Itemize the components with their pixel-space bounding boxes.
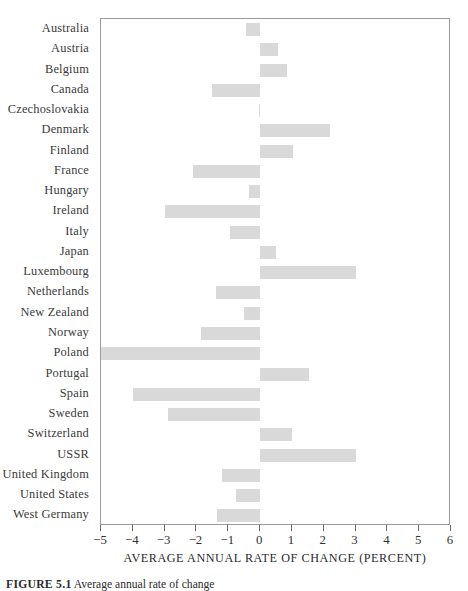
category-label: Luxembourg: [0, 261, 96, 281]
bar-row: [101, 445, 449, 465]
category-label: Spain: [0, 383, 96, 403]
bar: [216, 286, 261, 299]
category-label: Japan: [0, 241, 96, 261]
plot-area: [100, 18, 450, 525]
axis-tick: [323, 525, 324, 531]
category-label: Austria: [0, 38, 96, 58]
bar-row: [101, 39, 449, 59]
bar-row: [101, 485, 449, 505]
bar: [168, 408, 260, 421]
axis-tick: [195, 525, 196, 531]
figure-caption-text: Average annual rate of change: [74, 578, 215, 591]
bar: [260, 266, 355, 279]
axis-tick: [450, 525, 451, 531]
axis-tick: [418, 525, 419, 531]
bar: [260, 43, 278, 56]
bar-row: [101, 384, 449, 404]
bar: [222, 469, 260, 482]
bar: [246, 23, 260, 36]
bar-row: [101, 141, 449, 161]
axis-tick: [386, 525, 387, 531]
category-label: Netherlands: [0, 281, 96, 301]
bar-row: [101, 19, 449, 39]
x-axis: −5−4−3−2−10123456: [100, 525, 450, 526]
axis-tick-label: 5: [405, 533, 431, 548]
category-label: Denmark: [0, 119, 96, 139]
bar-group: [101, 19, 449, 524]
bar: [236, 489, 260, 502]
bar-row: [101, 505, 449, 525]
bar-row: [101, 242, 449, 262]
bar-row: [101, 404, 449, 424]
category-label-column: AustraliaAustriaBelgiumCanadaCzechoslova…: [0, 18, 96, 525]
bar-row: [101, 364, 449, 384]
category-label: Sweden: [0, 403, 96, 423]
axis-tick-label: 2: [310, 533, 336, 548]
axis-tick: [100, 525, 101, 531]
bar-row: [101, 161, 449, 181]
bar: [249, 185, 260, 198]
bar-row: [101, 80, 449, 100]
bar: [260, 246, 276, 259]
bar: [260, 449, 355, 462]
category-label: New Zealand: [0, 302, 96, 322]
category-label: USSR: [0, 444, 96, 464]
bar-row: [101, 120, 449, 140]
bar: [201, 327, 260, 340]
axis-tick: [291, 525, 292, 531]
category-label: Hungary: [0, 180, 96, 200]
bar-row: [101, 100, 449, 120]
bar: [260, 145, 293, 158]
bar-row: [101, 323, 449, 343]
axis-tick: [132, 525, 133, 531]
category-label: Poland: [0, 342, 96, 362]
bar-row: [101, 343, 449, 363]
figure-caption-label: FIGURE 5.1: [6, 578, 71, 591]
bar-row: [101, 424, 449, 444]
bar: [244, 307, 260, 320]
category-label: Portugal: [0, 363, 96, 383]
bar: [193, 165, 260, 178]
figure-container: AustraliaAustriaBelgiumCanadaCzechoslova…: [0, 0, 468, 591]
axis-tick-label: 0: [246, 533, 272, 548]
x-axis-title: AVERAGE ANNUAL RATE OF CHANGE (PERCENT): [100, 551, 450, 566]
bar: [101, 347, 260, 360]
category-label: Czechoslovakia: [0, 99, 96, 119]
bar: [133, 388, 260, 401]
axis-tick-label: −3: [151, 533, 177, 548]
bar: [260, 64, 287, 77]
bar: [260, 368, 309, 381]
category-label: Australia: [0, 18, 96, 38]
bar-row: [101, 282, 449, 302]
bar-row: [101, 303, 449, 323]
bar-row: [101, 181, 449, 201]
bar-row: [101, 60, 449, 80]
bar: [260, 428, 292, 441]
bar-row: [101, 201, 449, 221]
axis-tick-label: 6: [437, 533, 463, 548]
bar: [217, 509, 260, 522]
bar-row: [101, 222, 449, 242]
bar-row: [101, 262, 449, 282]
category-label: West Germany: [0, 504, 96, 524]
category-label: United Kingdom: [0, 464, 96, 484]
category-label: France: [0, 160, 96, 180]
bar: [260, 124, 330, 137]
axis-tick-label: 3: [342, 533, 368, 548]
category-label: Ireland: [0, 200, 96, 220]
axis-tick-label: −4: [119, 533, 145, 548]
axis-tick: [227, 525, 228, 531]
category-label: Canada: [0, 79, 96, 99]
category-label: United States: [0, 484, 96, 504]
axis-tick-label: 4: [373, 533, 399, 548]
figure-caption: FIGURE 5.1 Average annual rate of change: [6, 578, 462, 591]
bar: [165, 205, 260, 218]
category-label: Finland: [0, 140, 96, 160]
category-label: Switzerland: [0, 423, 96, 443]
bar-row: [101, 465, 449, 485]
axis-tick-label: −1: [214, 533, 240, 548]
axis-tick: [259, 525, 260, 531]
bar: [212, 84, 260, 97]
bar: [259, 104, 261, 117]
category-label: Norway: [0, 322, 96, 342]
